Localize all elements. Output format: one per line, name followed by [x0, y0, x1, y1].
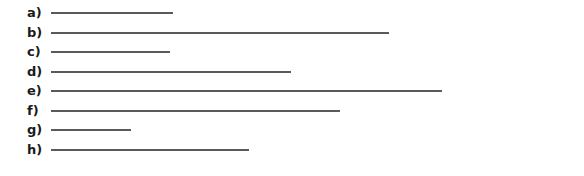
- answer-row: d): [0, 62, 584, 81]
- answer-row: a): [0, 3, 584, 22]
- answer-line: [51, 110, 340, 112]
- item-label: b): [27, 26, 42, 39]
- answer-row: e): [0, 81, 584, 100]
- answer-line: [51, 51, 170, 53]
- answer-line: [51, 129, 131, 131]
- answer-row: f): [0, 101, 584, 120]
- item-label: g): [27, 123, 42, 136]
- item-label: d): [27, 65, 42, 78]
- item-label: e): [27, 84, 42, 97]
- item-label: f): [27, 104, 39, 117]
- answer-row: b): [0, 23, 584, 42]
- answer-row: g): [0, 120, 584, 139]
- item-label: a): [27, 6, 42, 19]
- answer-line: [51, 149, 249, 151]
- answer-line: [51, 12, 173, 14]
- item-label: c): [27, 45, 41, 58]
- answer-row: c): [0, 42, 584, 61]
- answer-line: [51, 71, 291, 73]
- answer-row: h): [0, 140, 584, 159]
- answer-line: [51, 32, 389, 34]
- item-label: h): [27, 143, 42, 156]
- answer-line: [51, 90, 442, 92]
